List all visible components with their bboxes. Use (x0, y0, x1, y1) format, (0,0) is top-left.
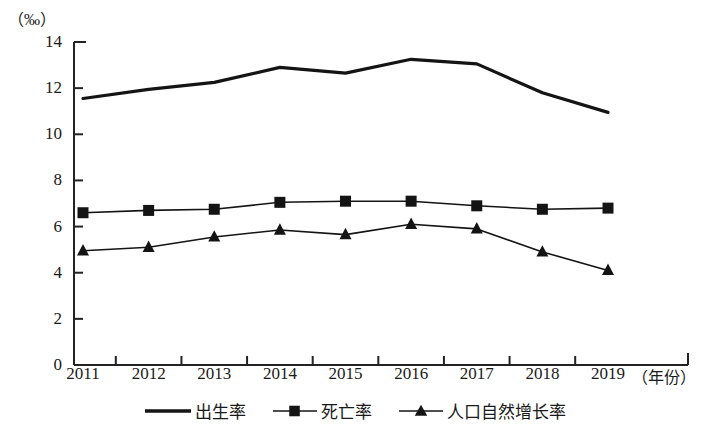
x-axis-tick-label: 2012 (119, 364, 179, 384)
chart-legend: 出生率死亡率人口自然增长率 (0, 398, 710, 423)
x-axis-tick-label: 2015 (316, 364, 376, 384)
x-axis-tick-label: 2016 (381, 364, 441, 384)
y-axis-tick-label: 2 (22, 309, 62, 329)
series-marker-square (603, 203, 614, 214)
y-axis-tick-label: 10 (22, 124, 62, 144)
series-marker-square (340, 196, 351, 207)
legend-item-label: 人口自然增长率 (447, 398, 566, 423)
chart-container: （‰） 02468101214 201120122013201420152016… (0, 0, 710, 430)
x-axis-tick-label: 2017 (447, 364, 507, 384)
x-axis-tick-label: 2018 (512, 364, 572, 384)
series-marker-square (78, 207, 89, 218)
legend-item[interactable]: 出生率 (144, 398, 246, 423)
y-axis-tick-label: 14 (22, 32, 62, 52)
series-marker-square (537, 204, 548, 215)
legend-item-label: 出生率 (195, 398, 246, 423)
y-axis-tick-label: 8 (22, 170, 62, 190)
legend-item[interactable]: 人口自然增长率 (398, 398, 566, 423)
legend-marker-line-square-icon (272, 404, 318, 418)
x-axis-title: （年份） (632, 364, 696, 388)
series-marker-square (274, 197, 285, 208)
series-marker-triangle (405, 217, 417, 228)
x-axis-tick-label: 2011 (53, 364, 113, 384)
legend-marker-line-triangle-icon (398, 404, 444, 418)
chart-series-layer (77, 59, 614, 275)
series-marker-triangle (471, 222, 483, 233)
y-axis-tick-label: 12 (22, 78, 62, 98)
y-axis-tick-label: 6 (22, 217, 62, 237)
x-axis-tick-label: 2013 (184, 364, 244, 384)
series-marker-triangle (274, 223, 286, 234)
legend-item-label: 死亡率 (321, 398, 372, 423)
x-axis-tick-label: 2014 (250, 364, 310, 384)
chart-axes (74, 42, 688, 365)
series-marker-square (471, 200, 482, 211)
y-axis-tick-label: 4 (22, 263, 62, 283)
series-marker-square (209, 204, 220, 215)
series-marker-triangle (77, 244, 89, 255)
legend-marker-line-plain-icon (144, 404, 192, 418)
legend-item[interactable]: 死亡率 (272, 398, 372, 423)
series-marker-square (406, 196, 417, 207)
x-axis-tick-label: 2019 (578, 364, 638, 384)
series-marker-square (143, 205, 154, 216)
series-line-0 (83, 59, 608, 112)
